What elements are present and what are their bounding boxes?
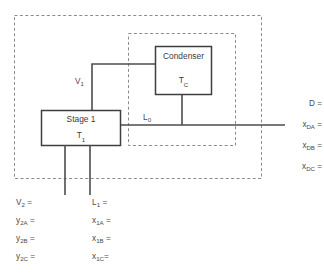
stream-label-v1: V1 — [75, 77, 84, 86]
bottom-left-suffix-1: = — [28, 216, 35, 225]
right-entry-3: xDC = — [302, 162, 322, 171]
stream-label-v1-symbol: V — [75, 77, 81, 86]
bottom-left-suffix-2: = — [28, 234, 35, 243]
bottom-right-entry-2: x1B = — [92, 234, 111, 243]
bottom-right-suffix-1: = — [104, 216, 111, 225]
bottom-right-sub-1: 1A — [96, 219, 103, 226]
stream-label-l0-sub: 0 — [148, 116, 151, 123]
bottom-right-symbol-0: L — [92, 198, 97, 207]
bottom-left-entry-2: y2B = — [16, 234, 35, 243]
stream-line-v1 — [92, 64, 155, 110]
bottom-left-sub-3: 2C — [20, 255, 28, 262]
right-suffix-1: = — [315, 120, 322, 129]
stream-label-l0: L0 — [143, 113, 151, 122]
bottom-right-sub-0: 1 — [97, 201, 100, 208]
bottom-right-suffix-3: = — [104, 252, 109, 261]
unit-label-condenser: Condenser — [153, 51, 214, 61]
process-flow-diagram: Stage 1 T1 Condenser TC V1 L0 V2 = y2A =… — [0, 0, 324, 274]
right-sub-2: DB — [306, 144, 314, 151]
bottom-right-suffix-2: = — [104, 234, 111, 243]
bottom-right-entry-1: x1A = — [92, 216, 111, 225]
right-suffix-0: = — [315, 99, 322, 108]
stream-label-v1-sub: 1 — [81, 80, 84, 87]
bottom-left-entry-3: y2C = — [16, 252, 35, 261]
right-suffix-2: = — [315, 141, 322, 150]
right-suffix-3: = — [315, 162, 322, 171]
right-entry-1: xDA = — [302, 120, 322, 129]
right-entry-2: xDB = — [302, 141, 322, 150]
bottom-left-sub-1: 2A — [20, 219, 27, 226]
unit-temperature-condenser: TC — [153, 75, 214, 87]
bottom-left-symbol-0: V — [16, 198, 22, 207]
bottom-right-entry-3: x1C= — [92, 252, 109, 261]
unit-temperature-sub-condenser: C — [184, 81, 188, 88]
unit-label-stage-1: Stage 1 — [41, 114, 121, 124]
bottom-right-entry-0: L1 = — [92, 198, 107, 207]
unit-temperature-stage-1: T1 — [41, 130, 121, 142]
bottom-right-sub-2: 1B — [96, 237, 103, 244]
bottom-left-sub-2: 2B — [20, 237, 27, 244]
right-entry-0: D = — [309, 99, 322, 108]
bottom-left-entry-1: y2A = — [16, 216, 35, 225]
bottom-right-suffix-0: = — [100, 198, 107, 207]
bottom-left-suffix-0: = — [25, 198, 32, 207]
bottom-left-sub-0: 2 — [22, 201, 25, 208]
bottom-left-suffix-3: = — [28, 252, 35, 261]
right-sub-3: DC — [306, 165, 315, 172]
overall-envelope-boundary — [15, 16, 262, 179]
right-sub-1: DA — [306, 123, 314, 130]
stream-label-l0-symbol: L — [143, 113, 148, 122]
bottom-left-entry-0: V2 = — [16, 198, 32, 207]
unit-temperature-sub-stage-1: 1 — [82, 136, 85, 143]
bottom-right-sub-3: 1C — [96, 255, 104, 262]
